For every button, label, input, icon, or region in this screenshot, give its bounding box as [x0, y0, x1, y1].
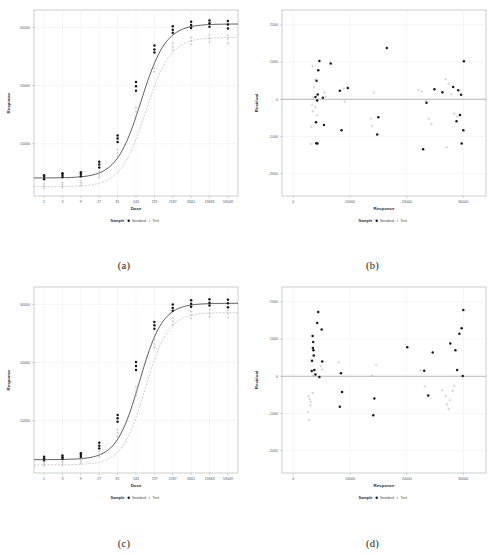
- xtick-label-5: 243: [133, 200, 139, 204]
- data-point-26: [190, 310, 193, 313]
- data-point-21: [171, 45, 174, 48]
- data-point-25: [190, 43, 193, 46]
- legend: SampleStandardTest: [359, 218, 407, 223]
- data-point-28: [208, 41, 211, 44]
- data-point-12: [116, 137, 119, 140]
- plot-area-b: 0100002000030000-2000-1000010002000Respo…: [248, 0, 497, 245]
- axis-ticks: 1392781243729218765611968359049100002000…: [20, 26, 233, 204]
- x-axis-title: Dose: [131, 206, 142, 211]
- legend-marker-test: [396, 220, 399, 223]
- ytick-label-2: 30000: [20, 303, 30, 307]
- data-point-11: [329, 62, 332, 65]
- data-point-17: [376, 133, 379, 136]
- data-point-13: [318, 376, 321, 379]
- data-point-2: [43, 182, 46, 185]
- data-point-4: [61, 464, 64, 467]
- x-axis-title: Response: [374, 483, 396, 488]
- data-point-7: [80, 175, 83, 178]
- dose-response-chart-a: 1392781243729218765611968359049100002000…: [0, 0, 248, 245]
- data-point-0: [311, 335, 314, 338]
- panel-a: 1392781243729218765611968359049100002000…: [0, 0, 248, 277]
- data-point-18: [153, 343, 156, 346]
- data-point-12: [116, 152, 119, 155]
- data-point-32: [227, 299, 230, 302]
- xtick-label-1: 3: [61, 200, 63, 204]
- legend-entry-standard: Standard: [380, 496, 394, 500]
- data-point-20: [433, 88, 436, 91]
- legend-marker-standard: [375, 497, 378, 500]
- data-point-18: [421, 90, 424, 93]
- data-point-18: [153, 67, 156, 70]
- data-point-8: [314, 373, 317, 376]
- data-point-20: [451, 389, 454, 392]
- data-point-5: [311, 359, 314, 362]
- data-point-23: [172, 303, 175, 306]
- ytick-label-2: 0: [276, 98, 278, 102]
- data-point-31: [227, 306, 230, 309]
- xtick-label-7: 2187: [169, 477, 177, 481]
- data-point-27: [446, 146, 449, 149]
- data-point-19: [153, 346, 156, 349]
- data-point-28: [208, 26, 211, 29]
- plot-area-a: 1392781243729218765611968359049100002000…: [0, 0, 248, 245]
- data-point-23: [457, 89, 460, 92]
- legend-title: Sample: [111, 495, 126, 500]
- data-point-22: [172, 31, 175, 34]
- data-point-1: [316, 99, 319, 102]
- xtick-label-3: 30000: [458, 200, 468, 204]
- data-point-8: [320, 365, 323, 368]
- data-point-26: [460, 327, 463, 330]
- xtick-label-3: 30000: [458, 477, 468, 481]
- ytick-label-3: 1000: [270, 337, 278, 341]
- data-point-28: [208, 315, 211, 318]
- data-point-11: [320, 328, 323, 331]
- data-point-26: [190, 36, 193, 39]
- data-point-18: [153, 324, 156, 327]
- data-point-11: [98, 442, 101, 445]
- gridlines: [282, 287, 486, 473]
- data-point-14: [116, 148, 119, 151]
- data-point-8: [318, 60, 321, 63]
- xtick-label-8: 6561: [187, 477, 195, 481]
- data-point-28: [208, 304, 211, 307]
- data-point-6: [314, 106, 317, 109]
- data-point-28: [456, 369, 459, 372]
- data-point-6: [316, 142, 319, 145]
- panel-c: 1392781243729218765611968359049100002000…: [0, 277, 248, 555]
- data-point-16: [135, 90, 138, 93]
- data-point-7: [310, 126, 313, 129]
- data-point-3: [312, 349, 315, 352]
- data-point-23: [449, 342, 452, 345]
- data-point-26: [456, 115, 459, 118]
- legend-marker-test: [396, 497, 399, 500]
- data-point-4: [312, 354, 315, 357]
- xtick-label-6: 729: [151, 477, 157, 481]
- data-point-32: [227, 309, 230, 312]
- data-point-3: [312, 96, 315, 99]
- data-point-18: [425, 101, 428, 104]
- data-point-27: [462, 129, 465, 132]
- data-point-9: [98, 444, 101, 447]
- xtick-label-1: 10000: [345, 200, 355, 204]
- data-point-19: [447, 408, 450, 411]
- data-point-10: [323, 91, 326, 94]
- data-point-4: [61, 176, 64, 179]
- data-point-21: [172, 29, 175, 32]
- data-point-17: [135, 106, 138, 109]
- legend-entry-test: Test: [153, 219, 159, 223]
- data-point-7: [80, 184, 83, 187]
- data-point-5: [61, 172, 64, 175]
- y-axis-title: Response: [6, 92, 11, 114]
- data-point-13: [116, 421, 119, 424]
- data-point-10: [316, 322, 319, 325]
- data-point-21: [453, 385, 456, 388]
- xtick-label-10: 59049: [223, 200, 233, 204]
- data-point-15: [370, 117, 373, 120]
- data-point-10: [323, 124, 326, 127]
- ytick-label-1: -1000: [269, 135, 278, 139]
- legend: SampleStandardTest: [359, 495, 407, 500]
- legend-entry-test: Test: [401, 496, 407, 500]
- xtick-label-5: 243: [133, 477, 139, 481]
- data-point-21: [430, 123, 433, 126]
- ytick-label-0: 10000: [20, 419, 30, 423]
